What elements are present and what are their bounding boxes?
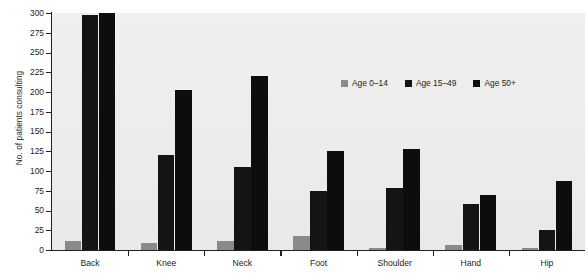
y-tick-mark	[46, 53, 51, 54]
bar-chart: No. of patients consulting 0255075100125…	[0, 0, 588, 279]
y-tick-label: 75	[18, 187, 44, 195]
bar-group	[522, 13, 573, 250]
x-tick-label: Knee	[126, 258, 206, 268]
y-tick-mark	[46, 33, 51, 34]
y-tick-label: 300	[18, 9, 44, 17]
legend-item: Age 50+	[473, 78, 515, 88]
bar	[175, 90, 192, 250]
x-tick-label: Neck	[202, 258, 282, 268]
legend-label: Age 50+	[484, 78, 515, 88]
x-tick-mark	[280, 251, 281, 256]
legend-swatch-icon	[473, 80, 480, 87]
bar-group	[293, 13, 344, 250]
bar	[82, 15, 99, 250]
bar	[99, 13, 116, 250]
y-tick-mark	[46, 112, 51, 113]
bar	[327, 151, 344, 250]
bar	[445, 245, 462, 250]
bar	[158, 155, 175, 250]
x-tick-label: Hip	[507, 258, 587, 268]
bar	[403, 149, 420, 250]
x-tick-label: Hand	[431, 258, 511, 268]
bar-group	[369, 13, 420, 250]
y-tick-label: 250	[18, 48, 44, 56]
legend-label: Age 15–49	[416, 78, 457, 88]
bar-group	[141, 13, 192, 250]
y-axis-tick-labels: 0255075100125150175200225250275300	[18, 0, 44, 279]
x-axis-tick-labels: BackKneeNeckFootShoulderHandHip	[52, 258, 585, 274]
bar	[463, 204, 480, 250]
bar-group	[65, 13, 116, 250]
bar	[141, 243, 158, 250]
y-tick-label: 25	[18, 226, 44, 234]
y-tick-mark	[46, 13, 51, 14]
y-tick-label: 225	[18, 68, 44, 76]
x-tick-mark	[357, 251, 358, 256]
bar	[556, 181, 573, 250]
bar	[234, 167, 251, 250]
legend-swatch-icon	[341, 80, 348, 87]
y-tick-mark	[46, 211, 51, 212]
legend: Age 0–14Age 15–49Age 50+	[341, 78, 516, 88]
bar	[386, 188, 403, 250]
legend-swatch-icon	[405, 80, 412, 87]
y-tick-mark	[46, 191, 51, 192]
y-tick-label: 50	[18, 206, 44, 214]
y-tick-mark	[46, 132, 51, 133]
y-tick-label: 200	[18, 88, 44, 96]
y-tick-label: 125	[18, 147, 44, 155]
legend-item: Age 15–49	[405, 78, 457, 88]
bar	[251, 76, 268, 250]
legend-label: Age 0–14	[352, 78, 388, 88]
y-tick-label: 175	[18, 108, 44, 116]
x-tick-label: Back	[50, 258, 130, 268]
bar	[65, 241, 82, 250]
x-tick-label: Shoulder	[355, 258, 435, 268]
y-tick-label: 275	[18, 29, 44, 37]
y-tick-mark	[46, 250, 51, 251]
x-tick-mark	[128, 251, 129, 256]
x-tick-mark	[204, 251, 205, 256]
bar-group	[217, 13, 268, 250]
y-tick-label: 150	[18, 127, 44, 135]
y-tick-mark	[46, 92, 51, 93]
bar	[539, 230, 556, 250]
plot-area	[52, 13, 585, 250]
x-tick-label: Foot	[279, 258, 359, 268]
x-tick-mark	[433, 251, 434, 256]
x-axis-line	[51, 250, 585, 251]
x-tick-mark	[509, 251, 510, 256]
bar	[217, 241, 234, 250]
y-tick-label: 100	[18, 167, 44, 175]
legend-item: Age 0–14	[341, 78, 388, 88]
bar	[480, 195, 497, 250]
bar	[310, 191, 327, 250]
bar	[522, 248, 539, 250]
y-tick-mark	[46, 151, 51, 152]
bar	[293, 236, 310, 250]
y-tick-mark	[46, 171, 51, 172]
y-tick-mark	[46, 230, 51, 231]
y-tick-label: 0	[18, 246, 44, 254]
bar	[369, 248, 386, 250]
bar-group	[445, 13, 496, 250]
y-tick-mark	[46, 72, 51, 73]
